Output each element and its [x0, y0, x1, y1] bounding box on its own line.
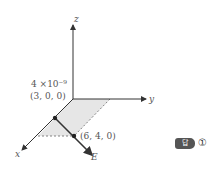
point-a	[53, 116, 57, 120]
x-axis-label: x	[15, 150, 20, 159]
answer-badge: 답	[175, 138, 195, 149]
answer-choice: ①	[198, 137, 207, 148]
z-axis-label: z	[74, 15, 79, 24]
diagram-root: z y x 4 ×10⁻⁹ (3, 0, 0) (6, 4, 0) E 답 ①	[0, 0, 224, 170]
field-label: E	[91, 153, 98, 162]
point-a-label: (3, 0, 0)	[30, 92, 66, 101]
y-axis-label: y	[149, 95, 154, 104]
point-b	[72, 134, 76, 138]
point-b-label: (6, 4, 0)	[80, 132, 116, 141]
charge-label: 4 ×10⁻⁹	[31, 80, 67, 89]
